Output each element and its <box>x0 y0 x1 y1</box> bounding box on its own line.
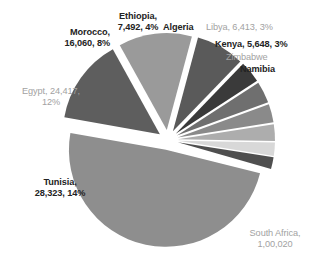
slice-label-algeria: Algeria <box>163 22 193 33</box>
slice-label-kenya: Kenya, 5,648, 3% <box>215 39 287 50</box>
slice-label-zimbabwe: Zimbabwe <box>226 52 268 63</box>
slice-label-libya: Libya, 6,413, 3% <box>206 22 273 33</box>
slice-label-egypt: Egypt, 24,417, 12% <box>8 86 94 108</box>
slice-label-morocco-line2: 16,060, 8% <box>10 38 110 49</box>
slice-label-tunisia: Tunisia, 28,323, 14% <box>11 177 109 199</box>
slice-label-south-africa: South Africa, 1,00,020 <box>232 228 318 250</box>
slice-label-egypt-line2: 12% <box>8 97 94 108</box>
slice-label-ethiopia-line1: Ethiopia, <box>100 11 176 22</box>
slice-label-tunisia-line2: 28,323, 14% <box>11 188 109 199</box>
slice-label-tunisia-line1: Tunisia, <box>11 177 109 188</box>
slice-label-morocco-line1: Morocco, <box>10 27 110 38</box>
slice-label-south-africa-line2: 1,00,020 <box>232 239 318 250</box>
slice-label-south-africa-line1: South Africa, <box>232 228 318 239</box>
pie-chart: Morocco, 16,060, 8% Ethiopia, 7,492, 4% … <box>0 0 325 267</box>
slice-label-morocco: Morocco, 16,060, 8% <box>10 27 110 49</box>
slice-label-egypt-line1: Egypt, 24,417, <box>8 86 94 97</box>
slice-label-namibia: Namibia <box>240 64 275 75</box>
